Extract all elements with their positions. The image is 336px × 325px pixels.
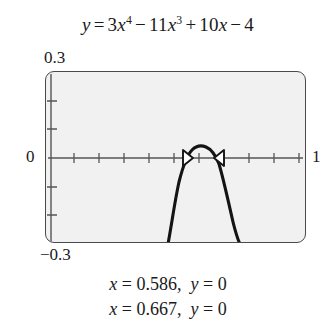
readout-row: x = 0.586,y = 0 (0, 272, 336, 297)
readout-1-x-variable: x (109, 274, 117, 294)
term-4-coefficient: 4 (244, 14, 254, 35)
term-2-operator: − (132, 14, 149, 35)
term-4-operator: − (227, 14, 244, 35)
readout-1-x-equals: = (122, 274, 132, 294)
readout-1-y-equals: = (203, 274, 213, 294)
term-3-coefficient: 10 (199, 14, 218, 35)
readout-2-comma: , (177, 299, 182, 319)
readout-1-y-variable: y (191, 274, 199, 294)
readout-2-x-variable: x (109, 299, 117, 319)
origin-label: 0 (26, 147, 35, 167)
root-readouts: x = 0.586,y = 0 x = 0.667,y = 0 (0, 272, 336, 322)
y-axis-min-label: −0.3 (40, 245, 71, 265)
term-2-variable: x (168, 14, 177, 35)
readout-2-y-equals: = (203, 299, 213, 319)
term-1-variable: x (117, 14, 126, 35)
equation-lhs: y (82, 14, 91, 35)
readout-2-x-value: 0.667 (137, 299, 178, 319)
term-2-coefficient: 11 (149, 14, 168, 35)
x-axis-max-label: 1 (312, 147, 321, 167)
readout-row: x = 0.667,y = 0 (0, 297, 336, 322)
equation-equals: = (91, 14, 108, 35)
equation-caption: y=3x4−11x3+10x−4 (0, 14, 336, 36)
term-3-operator: + (182, 14, 199, 35)
graph-figure: y=3x4−11x3+10x−4 0.3 −0.3 0 1 (0, 0, 336, 325)
readout-2-x-equals: = (122, 299, 132, 319)
readout-2-y-variable: y (191, 299, 199, 319)
term-1-coefficient: 3 (108, 14, 118, 35)
readout-1-y-value: 0 (218, 274, 227, 294)
readout-1-comma: , (177, 274, 182, 294)
readout-1-x-value: 0.586 (137, 274, 178, 294)
plot-area (45, 71, 306, 243)
y-axis-max-label: 0.3 (44, 48, 65, 68)
polynomial-curve (168, 146, 240, 243)
readout-2-y-value: 0 (218, 299, 227, 319)
graph-canvas (46, 72, 306, 243)
